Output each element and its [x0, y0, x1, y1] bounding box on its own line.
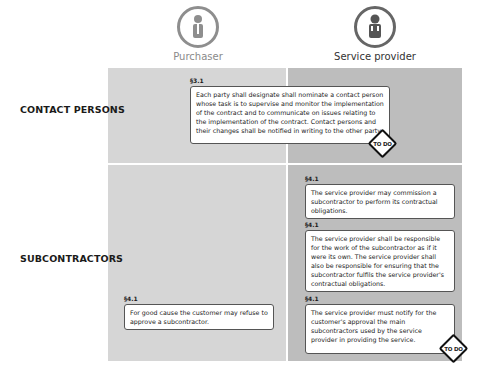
clause-refuse-subcontractor: §4.1 For good cause the customer may ref…: [124, 295, 274, 330]
cell-sub-purchaser: [108, 165, 286, 361]
role-service-provider: Service provider: [315, 6, 435, 62]
role-label: Service provider: [315, 51, 435, 62]
clause-ref: §4.1: [124, 295, 274, 302]
clause-ref: §3.1: [190, 77, 390, 84]
clause-ref: §4.1: [305, 295, 455, 302]
clause-commission-subcontractor: §4.1 The service provider may commission…: [305, 175, 455, 219]
clause-contact-person: §3.1 Each party shall designate shall no…: [190, 77, 390, 144]
clause-text: The service provider may commission a su…: [305, 184, 455, 219]
person-icon: [354, 6, 396, 48]
clause-notify-subcontractors: §4.1 The service provider must notify fo…: [305, 295, 455, 354]
todo-badge[interactable]: TO DO: [372, 133, 393, 154]
clause-responsibility: §4.1 The service provider shall be respo…: [305, 221, 455, 292]
row-label-contact-persons: CONTACT PERSONS: [20, 104, 125, 115]
clause-text: For good cause the customer may refuse t…: [124, 304, 274, 330]
row-label-subcontractors: SUBCONTRACTORS: [20, 253, 123, 264]
role-purchaser: Purchaser: [138, 6, 258, 62]
clause-ref: §4.1: [305, 175, 455, 182]
clause-ref: §4.1: [305, 221, 455, 228]
clause-text: The service provider must notify for the…: [305, 304, 455, 354]
clause-text: The service provider shall be responsibl…: [305, 230, 455, 292]
clause-text: Each party shall designate shall nominat…: [190, 86, 390, 144]
role-label: Purchaser: [138, 51, 258, 62]
todo-badge[interactable]: TO DO: [443, 338, 464, 359]
person-icon: [177, 6, 219, 48]
